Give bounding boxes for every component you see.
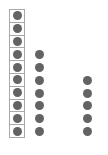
- ten-frame-column: [9, 9, 25, 138]
- frame-cell: [10, 61, 24, 74]
- dot-icon: [35, 76, 44, 85]
- frame-cell: [10, 23, 24, 36]
- dot-diagram: [0, 0, 108, 155]
- dot-icon: [83, 114, 92, 123]
- dot-icon: [83, 127, 92, 136]
- five-dot-column: [80, 10, 94, 138]
- dot-icon: [35, 101, 44, 110]
- frame-cell: [10, 74, 24, 87]
- dot-icon: [13, 114, 22, 123]
- dot-icon: [35, 114, 44, 123]
- dot-icon: [13, 101, 22, 110]
- dot-icon: [13, 127, 22, 136]
- dot-icon: [13, 37, 22, 46]
- dot-icon: [35, 127, 44, 136]
- frame-cell: [10, 112, 24, 125]
- frame-cell: [10, 100, 24, 113]
- frame-cell: [10, 87, 24, 100]
- dot-icon: [35, 89, 44, 98]
- dot-icon: [83, 76, 92, 85]
- frame-cell: [10, 125, 24, 137]
- dot-icon: [13, 88, 22, 97]
- frame-cell: [10, 48, 24, 61]
- dot-icon: [13, 50, 22, 59]
- frame-cell: [10, 10, 24, 23]
- dot-icon: [13, 75, 22, 84]
- dot-icon: [83, 101, 92, 110]
- dot-icon: [13, 63, 22, 72]
- dot-icon: [13, 11, 22, 20]
- seven-dot-column: [32, 10, 46, 138]
- dot-icon: [35, 63, 44, 72]
- dot-icon: [83, 89, 92, 98]
- frame-cell: [10, 36, 24, 49]
- dot-icon: [13, 24, 22, 33]
- dot-icon: [35, 50, 44, 59]
